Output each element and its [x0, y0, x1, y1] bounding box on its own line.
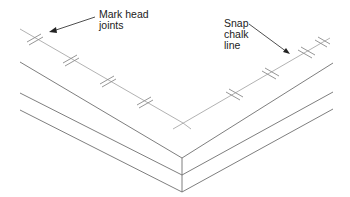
- right-bottom-edge: [182, 109, 333, 192]
- arrowhead-icon: [283, 48, 290, 54]
- head-joint-mark: [27, 34, 43, 45]
- leader-line: [249, 24, 287, 52]
- diagram-canvas: Mark head joints Snap chalk line: [0, 0, 350, 197]
- chalk-line-right: [173, 38, 330, 129]
- right-outer-top-edge: [182, 92, 333, 175]
- head-joint-mark: [100, 76, 116, 87]
- head-joint-mark: [226, 89, 243, 100]
- arrowhead-icon: [49, 27, 57, 33]
- wall-corner-illustration: [0, 0, 350, 197]
- head-joint-marks-left: [27, 34, 153, 108]
- head-joint-mark: [262, 68, 279, 79]
- left-inner-top-edge: [20, 62, 182, 158]
- leader-line: [53, 17, 95, 31]
- left-bottom-edge: [20, 110, 182, 192]
- left-outer-top-edge: [20, 93, 182, 175]
- label-mark-head-joints: Mark head joints: [99, 9, 149, 31]
- label-snap-chalk-line: Snap chalk line: [224, 18, 249, 51]
- head-joint-mark: [63, 55, 79, 66]
- chalk-line: [20, 29, 330, 129]
- leader-mark-head-joints: [49, 17, 95, 33]
- head-joint-mark: [137, 97, 153, 108]
- leader-snap-chalk-line: [249, 24, 290, 54]
- chalk-line-overrun: [183, 123, 191, 129]
